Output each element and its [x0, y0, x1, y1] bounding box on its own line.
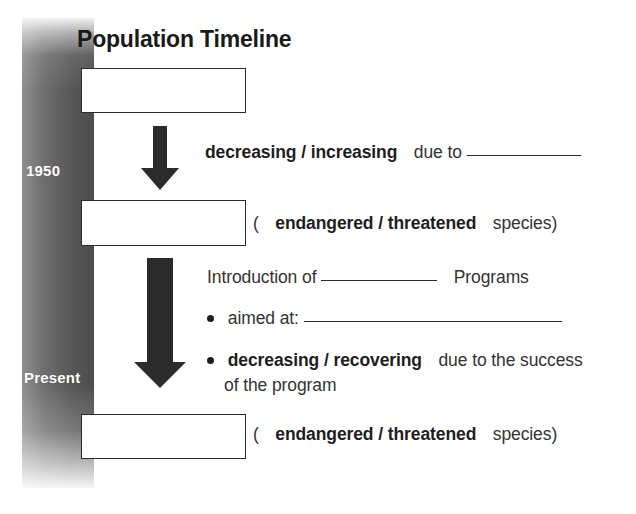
timeline-label-present: Present	[24, 369, 80, 386]
slash-2: /	[378, 213, 383, 233]
bullet-icon-2	[207, 357, 214, 364]
down-arrow-icon-1	[138, 126, 182, 192]
choice-endangered-1[interactable]: endangered	[275, 213, 373, 233]
blank-program-name[interactable]	[321, 267, 437, 281]
row-species-status-2: ( endangered / threatened species)	[253, 424, 557, 445]
answer-box-2[interactable]	[81, 200, 246, 246]
due-to-label-1: due to	[414, 142, 462, 162]
choice-endangered-2[interactable]: endangered	[275, 424, 373, 444]
answer-box-3[interactable]	[81, 414, 246, 459]
slash-4: /	[378, 424, 383, 444]
answer-box-1[interactable]	[81, 68, 246, 113]
row-species-status-1: ( endangered / threatened species)	[253, 213, 557, 234]
aimed-at-label: aimed at:	[228, 308, 299, 328]
introduction-label: Introduction of	[207, 267, 316, 287]
paren-open-1: (	[253, 213, 259, 233]
slash-1: /	[301, 142, 306, 162]
choice-decreasing-2[interactable]: decreasing	[228, 350, 319, 370]
blank-aimed-at[interactable]	[304, 308, 562, 322]
bullet-icon-1	[207, 315, 214, 322]
choice-decreasing-1[interactable]: decreasing	[205, 142, 296, 162]
page-title-heavy: Timeline	[200, 26, 291, 52]
blank-due-to-1[interactable]	[467, 142, 581, 156]
down-arrow-icon-2	[131, 258, 189, 390]
row-population-change-2-line2: of the program	[224, 375, 336, 396]
row-population-change-2: decreasing / recovering due to the succe…	[207, 350, 583, 371]
page-title-light: Population	[77, 26, 194, 52]
paren-open-2: (	[253, 424, 259, 444]
programs-label: Programs	[454, 267, 529, 287]
row-aimed-at: aimed at:	[207, 308, 562, 329]
timeline-label-1950: 1950	[26, 162, 60, 179]
species-close-2: species)	[493, 424, 557, 444]
choice-threatened-1[interactable]: threatened	[388, 213, 476, 233]
species-close-1: species)	[493, 213, 557, 233]
of-the-program-label: of the program	[224, 375, 336, 395]
choice-threatened-2[interactable]: threatened	[388, 424, 476, 444]
row-introduction-programs: Introduction of Programs	[207, 267, 529, 288]
choice-recovering-2[interactable]: recovering	[333, 350, 421, 370]
slash-3: /	[324, 350, 329, 370]
choice-increasing-1[interactable]: increasing	[311, 142, 398, 162]
due-to-success-label: due to the success	[438, 350, 582, 370]
page-title: Population Timeline	[77, 26, 291, 53]
row-population-change-1: decreasing / increasing due to	[205, 142, 581, 163]
population-timeline-worksheet: 1950 Present Population Timeline decreas…	[0, 0, 636, 514]
